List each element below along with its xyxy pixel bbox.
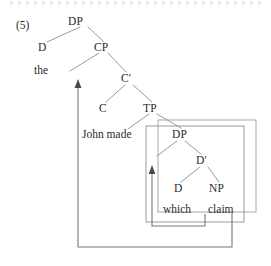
syntax-tree-graphics: [0, 0, 271, 266]
node-cbar: C′: [121, 73, 132, 85]
inner-movement-arrow-path: [152, 172, 205, 226]
branch-dp-d: [47, 27, 80, 42]
outer-movement-arrowhead: [75, 79, 82, 88]
leaf-claim: claim: [208, 204, 234, 216]
leaf-the: the: [34, 65, 48, 77]
branch-cbar-c: [106, 85, 125, 102]
node-d-inner: D: [174, 183, 183, 195]
branch-dbar-np: [208, 167, 219, 182]
leaf-which: which: [163, 204, 191, 216]
leaf-john-made: John made: [82, 129, 132, 141]
node-np: NP: [209, 183, 224, 195]
branch-cbar-tp: [133, 85, 152, 102]
node-c: C: [99, 103, 107, 115]
branch-dp-dbar: [185, 141, 201, 154]
branch-dp-specdp: [157, 141, 177, 156]
branch-dp-cp: [88, 27, 104, 42]
node-cp: CP: [94, 42, 108, 54]
branch-cp-spec: [70, 53, 99, 71]
node-d-top: D: [38, 42, 47, 54]
branch-cp-cbar: [108, 53, 126, 72]
node-dp-top: DP: [68, 16, 83, 28]
example-number: (5): [16, 20, 29, 32]
tree-branches: [47, 27, 219, 182]
inner-movement-arrowhead: [149, 165, 156, 174]
figure-canvas: (5) DP D CP the C′ C TP John made DP D′ …: [0, 0, 271, 266]
node-dbar: D′: [196, 155, 207, 167]
branch-dbar-d: [181, 167, 200, 182]
node-dp-inner: DP: [172, 129, 187, 141]
node-tp: TP: [143, 103, 157, 115]
